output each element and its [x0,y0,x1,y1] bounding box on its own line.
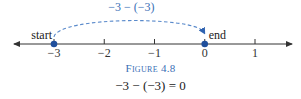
figure-caption: Figure 4.8 [0,62,301,74]
jump-arc [54,21,204,37]
equation: −3 − (−3) = 0 [0,78,301,94]
point-label-start: start [31,28,52,42]
tick-label: −2 [98,46,111,60]
point-label-end: end [209,28,226,42]
arc-label: −3 − (−3) [108,0,154,14]
point-end [201,41,208,48]
tick-label: 1 [252,46,258,60]
tick-label: 0 [202,46,208,60]
tick-label: −3 [48,46,61,60]
tick-label: −1 [148,46,161,60]
